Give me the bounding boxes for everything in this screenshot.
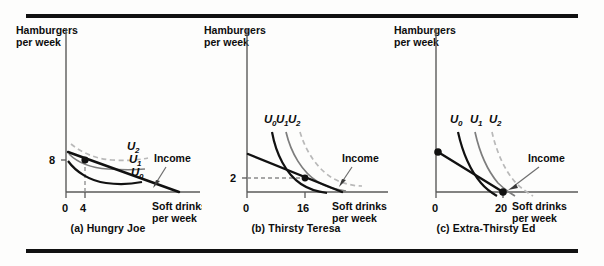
y-axis-label-line1: Hamburgers — [16, 24, 78, 36]
x-axis-label-line1: Soft drinks — [332, 200, 387, 212]
curve-label-u2: U 2 — [489, 113, 502, 128]
optimum-point — [81, 156, 88, 163]
x-tick-label-0: 0 — [432, 202, 438, 214]
svg-text:2: 2 — [496, 119, 502, 128]
panel-extra-thirsty-ed: Hamburgers per week 0 20 U — [392, 20, 580, 248]
figure-container: Hamburgers per week 8 0 4 — [0, 0, 604, 266]
chart-a: Hamburgers per week 8 0 4 — [14, 20, 202, 248]
optimum-point — [302, 175, 309, 182]
income-leader-line — [514, 167, 539, 186]
x-tick-label-4: 4 — [80, 202, 87, 214]
x-tick-label-0: 0 — [243, 202, 249, 214]
y-axis-label-line2: per week — [394, 36, 439, 48]
svg-text:0: 0 — [458, 119, 463, 128]
x-axis-label-line1: Soft drinks — [512, 200, 567, 212]
x-axis-label-line1: Soft drinks — [152, 200, 202, 212]
income-label: Income — [154, 152, 191, 164]
budget-line-income — [248, 154, 342, 192]
chart-c: Hamburgers per week 0 20 U — [392, 20, 580, 248]
curve-label-u0: U 0 — [450, 113, 463, 128]
svg-text:0: 0 — [139, 172, 144, 181]
x-tick-label-16: 16 — [297, 202, 309, 214]
y-axis-label-line2: per week — [204, 36, 249, 48]
chart-b: Hamburgers per week 2 0 16 — [202, 20, 390, 248]
svg-text:1: 1 — [478, 119, 483, 128]
x-tick-label-20: 20 — [495, 202, 507, 214]
y-tick-label-2: 2 — [230, 172, 236, 184]
y-axis-label-line2: per week — [16, 36, 61, 48]
optimum-point — [499, 188, 507, 196]
y-axis-label-line1: Hamburgers — [394, 24, 456, 36]
bottom-rule — [26, 249, 578, 253]
svg-text:2: 2 — [295, 119, 301, 128]
caption-panel-b: (b) Thirsty Teresa — [202, 222, 390, 234]
income-label: Income — [342, 152, 379, 164]
curve-label-u1: U 1 — [470, 113, 483, 128]
budget-line-income — [438, 152, 503, 192]
curve-label-u2: U 2 — [288, 113, 301, 128]
y-tick-label-8: 8 — [49, 154, 55, 166]
panel-thirsty-teresa: Hamburgers per week 2 0 16 — [202, 20, 390, 248]
income-label: Income — [528, 152, 565, 164]
income-arrowhead — [508, 184, 518, 190]
top-rule — [26, 14, 578, 18]
panel-hungry-joe: Hamburgers per week 8 0 4 — [14, 20, 202, 248]
x-tick-label-0: 0 — [62, 202, 68, 214]
caption-panel-c: (c) Extra-Thirsty Ed — [392, 222, 580, 234]
budget-endpoint-point — [434, 148, 442, 156]
curve-label-u0: U 0 — [131, 166, 144, 181]
indifference-curve-u2 — [492, 132, 533, 196]
caption-panel-a: (a) Hungry Joe — [14, 222, 202, 234]
y-axis-label-line1: Hamburgers — [204, 24, 266, 36]
